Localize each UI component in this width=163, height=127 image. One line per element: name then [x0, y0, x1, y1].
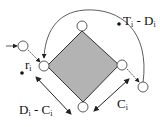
- node-next: [138, 82, 148, 92]
- c-main: C: [117, 96, 126, 111]
- label-exec: Ci: [117, 97, 128, 112]
- release-sub: i: [29, 64, 31, 73]
- t-main: T: [123, 13, 131, 28]
- label-deadline-minus-exec: Di - Ci: [19, 103, 52, 118]
- node-prev: [18, 41, 28, 51]
- diagram: ri Ti - Di Di - Ci Ci: [0, 0, 163, 127]
- task-diamond: [47, 31, 119, 102]
- deadline-dot: [117, 22, 121, 26]
- right-to-next-arrow: [127, 69, 139, 82]
- release-dot: [20, 71, 24, 75]
- c-main: C: [41, 102, 50, 117]
- c-sub: i: [126, 103, 128, 112]
- label-period-minus-deadline: Ti - Di: [123, 14, 156, 29]
- node-left: [39, 61, 49, 71]
- sep: -: [133, 13, 144, 28]
- node-bottom: [78, 102, 88, 112]
- node-right: [117, 60, 127, 70]
- d-main: D: [144, 13, 153, 28]
- c-sub: i: [50, 109, 52, 118]
- d-main: D: [19, 102, 28, 117]
- d-sub: i: [153, 20, 155, 29]
- node-top: [77, 21, 87, 31]
- label-release: ri: [25, 58, 32, 73]
- sep: -: [31, 102, 42, 117]
